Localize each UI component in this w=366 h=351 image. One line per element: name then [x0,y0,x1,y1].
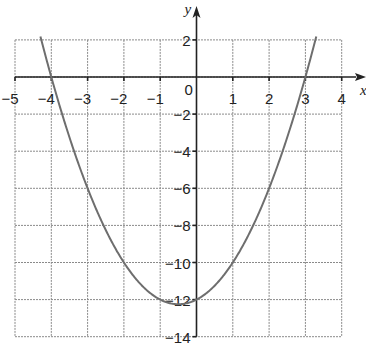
x-tick-label: −5 [1,90,18,107]
y-tick-label: −12 [165,292,190,309]
tick-labels: −5−4−3−2−112342−2−4−6−8−10−12−14 [1,32,345,346]
y-tick-label: −14 [165,329,190,346]
parabola-chart: −5−4−3−2−112342−2−4−6−8−10−12−14 x y 0 [0,0,366,351]
origin-label: 0 [185,81,193,98]
axes [15,6,366,337]
y-tick-label: −2 [173,106,190,123]
x-tick-label: −1 [147,90,164,107]
x-tick-label: −2 [110,90,127,107]
y-tick-label: −6 [173,180,190,197]
x-tick-label: 3 [301,90,309,107]
y-axis-label: y [183,1,192,17]
y-tick-label: 2 [182,32,190,49]
x-tick-label: 2 [265,90,273,107]
x-axis-label: x [359,82,366,98]
x-tick-label: 1 [229,90,237,107]
x-tick-label: 4 [338,90,346,107]
x-tick-label: −4 [38,90,55,107]
y-tick-label: −4 [173,143,190,160]
y-tick-label: −10 [165,255,190,272]
y-tick-label: −8 [173,217,190,234]
x-tick-label: −3 [74,90,91,107]
x-axis-arrow-icon [355,73,366,81]
